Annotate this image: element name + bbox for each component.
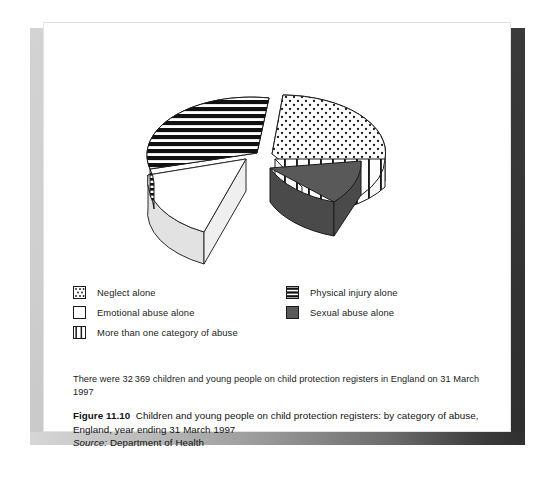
source-value: Department of Health: [110, 437, 204, 448]
figure-number: Figure 11.10: [73, 410, 130, 421]
legend-label-neglect: Neglect alone: [97, 288, 156, 297]
pie-chart-svg: [44, 23, 512, 275]
figure-caption: Figure 11.10 Children and young people o…: [73, 409, 493, 450]
legend-label-physical-injury: Physical injury alone: [310, 288, 398, 297]
legend-item-sexual-abuse[interactable]: Sexual abuse alone: [286, 304, 486, 321]
legend-swatch-neglect: [73, 286, 86, 299]
legend-label-sexual-abuse: Sexual abuse alone: [310, 308, 394, 317]
legend-column-right: Physical injury alone Sexual abuse alone: [286, 284, 486, 324]
legend-swatch-physical: [286, 286, 299, 299]
legend-label-emotional-abuse: Emotional abuse alone: [97, 308, 194, 317]
legend-item-more-than-one[interactable]: More than one category of abuse: [73, 324, 303, 341]
chart-note: There were 32 369 children and young peo…: [73, 373, 493, 399]
scanned-page: Neglect alone Emotional abuse alone: [0, 0, 557, 481]
legend-item-physical-injury[interactable]: Physical injury alone: [286, 284, 486, 301]
source-label: Source:: [73, 437, 107, 448]
figure-card: Neglect alone Emotional abuse alone: [43, 22, 511, 432]
legend-label-more-than-one: More than one category of abuse: [97, 328, 238, 337]
pie-chart: [44, 23, 512, 275]
legend-swatch-more-than-one: [73, 326, 86, 339]
legend-item-neglect[interactable]: Neglect alone: [73, 284, 303, 301]
legend-swatch-sexual: [286, 306, 299, 319]
legend-column-left: Neglect alone Emotional abuse alone: [73, 284, 303, 344]
legend-item-emotional-abuse[interactable]: Emotional abuse alone: [73, 304, 303, 321]
pie-slice-sexual-abuse: [270, 161, 361, 236]
legend-swatch-emotional: [73, 306, 86, 319]
pie-slice-emotional-abuse: [148, 159, 246, 264]
page-shadow-left: [30, 28, 43, 442]
page-shadow-right: [511, 28, 525, 442]
